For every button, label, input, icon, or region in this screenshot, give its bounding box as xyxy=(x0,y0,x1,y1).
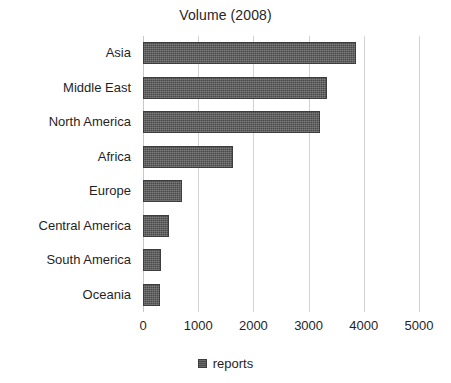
x-axis-tick-labels: 010002000300040005000 xyxy=(0,318,451,338)
bar-africa xyxy=(143,146,233,168)
category-label-europe: Europe xyxy=(0,183,131,198)
bar-row: Europe xyxy=(143,174,419,209)
x-tick-label-5000: 5000 xyxy=(384,318,451,333)
bar-asia xyxy=(143,42,356,64)
bar-row: Africa xyxy=(143,140,419,175)
chart-title: Volume (2008) xyxy=(0,7,451,23)
bar-oceania xyxy=(143,284,160,306)
legend-label-reports: reports xyxy=(213,356,253,371)
bar-central-america xyxy=(143,215,169,237)
bar-north-america xyxy=(143,111,320,133)
bar-south-america xyxy=(143,249,161,271)
plot-area: AsiaMiddle EastNorth AmericaAfricaEurope… xyxy=(143,36,419,312)
bar-row: Central America xyxy=(143,209,419,244)
gridline-5000 xyxy=(419,36,420,312)
category-label-middle-east: Middle East xyxy=(0,80,131,95)
bar-row: Oceania xyxy=(143,278,419,313)
category-label-oceania: Oceania xyxy=(0,287,131,302)
bar-row: South America xyxy=(143,243,419,278)
category-label-north-america: North America xyxy=(0,114,131,129)
chart-legend: reports xyxy=(0,356,451,371)
bar-row: Middle East xyxy=(143,71,419,106)
bar-row: Asia xyxy=(143,36,419,71)
category-label-africa: Africa xyxy=(0,149,131,164)
legend-swatch-icon xyxy=(198,359,207,368)
category-label-south-america: South America xyxy=(0,252,131,267)
bar-row: North America xyxy=(143,105,419,140)
bar-middle-east xyxy=(143,77,327,99)
bar-europe xyxy=(143,180,182,202)
category-label-central-america: Central America xyxy=(0,218,131,233)
category-label-asia: Asia xyxy=(0,45,131,60)
bar-chart-figure: Volume (2008) AsiaMiddle EastNorth Ameri… xyxy=(0,0,451,383)
